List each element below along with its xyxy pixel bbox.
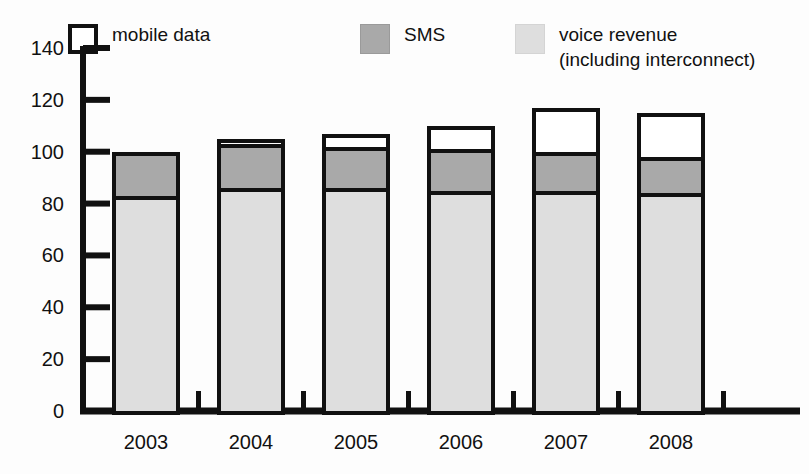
- bar-segment-sms: [217, 144, 285, 192]
- bar-segment-mobile-data: [637, 113, 705, 161]
- bar-segment-sms: [532, 152, 600, 195]
- y-axis-tick-label: 100: [10, 142, 64, 162]
- bar-segment-mobile-data: [322, 134, 390, 151]
- bar-segment-voice: [112, 196, 180, 415]
- bar-segment-sms: [427, 149, 495, 194]
- bar-segment-mobile-data: [427, 126, 495, 153]
- bar-segment-sms: [322, 147, 390, 192]
- y-axis-tick-label: 60: [10, 245, 64, 265]
- bar-segment-voice: [322, 188, 390, 415]
- bar-segment-voice: [217, 188, 285, 415]
- bar-segment-voice: [427, 191, 495, 415]
- bar-segment-sms: [112, 152, 180, 200]
- bar-segment-sms: [637, 157, 705, 197]
- bar-segment-mobile-data: [217, 139, 285, 148]
- y-axis-tick-label: 80: [10, 194, 64, 214]
- x-axis-tick-label: 2008: [616, 432, 726, 452]
- bar-segment-mobile-data: [532, 108, 600, 156]
- y-axis-tick-label: 120: [10, 90, 64, 110]
- y-axis-tick-label: 20: [10, 349, 64, 369]
- x-axis-labels: 200320042005200620072008: [0, 432, 809, 462]
- x-axis-tick-label: 2003: [91, 432, 201, 452]
- bar-segment-voice: [637, 193, 705, 415]
- x-axis-tick-label: 2006: [406, 432, 516, 452]
- y-axis-tick-label: 0: [10, 401, 64, 421]
- stacked-bar-chart: mobile data SMS voice revenue (including…: [0, 0, 809, 474]
- x-axis-tick-label: 2007: [511, 432, 621, 452]
- bars-layer: [0, 0, 809, 474]
- x-axis-tick-label: 2004: [196, 432, 306, 452]
- y-axis-tick-label: 40: [10, 297, 64, 317]
- plot-area: [0, 0, 809, 474]
- y-axis-labels: 020406080100120140: [6, 0, 64, 474]
- bar-segment-voice: [532, 191, 600, 415]
- y-axis-tick-label: 140: [10, 38, 64, 58]
- x-axis-tick-label: 2005: [301, 432, 411, 452]
